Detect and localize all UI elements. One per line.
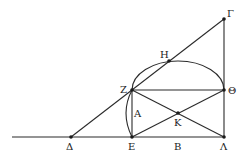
point-lambda <box>222 135 226 139</box>
point-theta <box>222 88 226 92</box>
label-epsilon: Ε <box>128 141 135 152</box>
point-delta <box>69 135 73 139</box>
label-eta: Η <box>160 49 169 60</box>
label-delta: Δ <box>66 141 73 152</box>
left-arc <box>126 90 132 137</box>
point-epsilon <box>130 135 134 139</box>
line-delta-gamma <box>71 19 224 137</box>
point-zeta <box>130 88 134 92</box>
geometry-diagram: Γ Η Ζ Θ Α Κ Δ Ε Β Λ <box>0 0 245 164</box>
point-gamma <box>222 17 226 21</box>
label-alpha: Α <box>133 108 142 119</box>
label-zeta: Ζ <box>120 84 127 95</box>
label-kappa: Κ <box>174 117 182 128</box>
semicircle-arc <box>132 61 224 90</box>
label-theta: Θ <box>228 85 236 96</box>
label-gamma: Γ <box>227 8 234 19</box>
label-lambda: Λ <box>219 141 228 152</box>
point-kappa <box>176 111 180 115</box>
label-beta: Β <box>174 141 181 152</box>
